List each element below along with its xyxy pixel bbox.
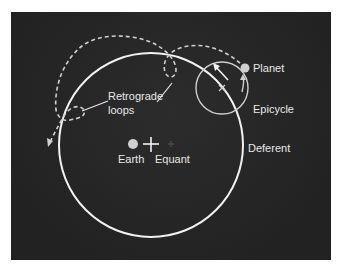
equant-label: Equant [155, 153, 190, 165]
earth-label: Earth [118, 153, 144, 165]
deferent-label: Deferent [248, 142, 290, 154]
earth-dot [128, 139, 138, 149]
retrograde-label-line2: loops [108, 104, 135, 116]
planet-label: Planet [253, 62, 284, 74]
planet-dot [241, 64, 250, 73]
ptolemaic-diagram: Planet Epicycle Deferent Earth Equant Re… [0, 0, 340, 270]
deferent-motion-arrow-icon [213, 63, 228, 80]
center-cross-icon [143, 137, 159, 152]
equant-icon [168, 141, 174, 147]
retrograde-label-line1: Retrograde [108, 90, 163, 102]
epicycle-label: Epicycle [253, 103, 294, 115]
retrograde-pointer-lower [82, 101, 108, 111]
